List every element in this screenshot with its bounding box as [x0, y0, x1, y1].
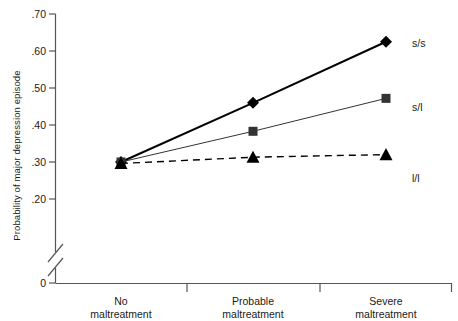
chart-figure: Probability of major depression episode … [0, 0, 458, 321]
data-point-ss-1 [247, 97, 259, 109]
x-category-line: Probable [192, 295, 314, 308]
data-point-sl-1 [249, 127, 258, 136]
data-point-ss-2 [380, 36, 392, 48]
data-point-ll-2 [380, 148, 393, 160]
x-category-label-0: No maltreatment [60, 295, 182, 320]
x-category-label-2: Severe maltreatment [325, 295, 447, 320]
series-label-sl: s/l [412, 101, 423, 113]
series-label-ss: s/s [412, 37, 425, 49]
series-label-ll: l/l [412, 172, 420, 184]
x-category-line: Severe [325, 295, 447, 308]
x-category-line: maltreatment [325, 308, 447, 321]
chart-plot-area [0, 0, 458, 321]
x-category-line: No [60, 295, 182, 308]
x-category-line: maltreatment [60, 308, 182, 321]
series-layer [115, 36, 393, 169]
x-category-line: maltreatment [192, 308, 314, 321]
x-category-label-1: Probable maltreatment [192, 295, 314, 320]
data-point-sl-2 [382, 94, 391, 103]
